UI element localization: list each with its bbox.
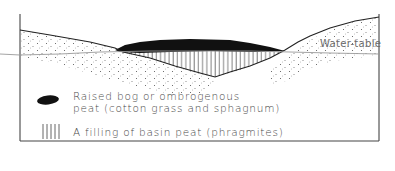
legend-raised-bog-line2: peat (cotton grass and sphagnum): [73, 102, 280, 114]
legend-raised-bog-line1: Raised bog or ombrogenous: [73, 90, 240, 102]
legend-basin-peat-symbol: [43, 124, 59, 139]
cross-section-diagram: [0, 0, 395, 171]
water-table-label: Water-table: [320, 38, 381, 49]
legend-basin-peat-label: A filling of basin peat (phragmites): [73, 126, 284, 138]
legend-raised-bog-symbol: [37, 94, 60, 105]
right-mineral-slope: [270, 17, 379, 85]
